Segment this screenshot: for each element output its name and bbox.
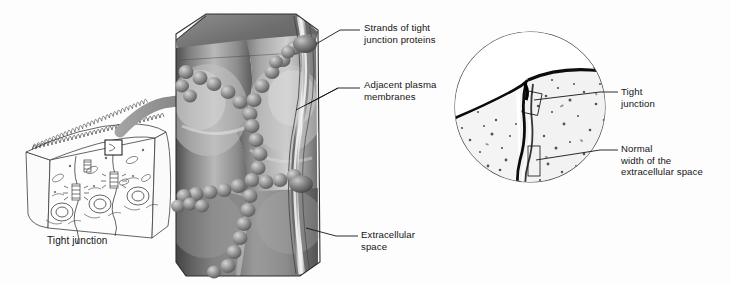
label-tight-junction-left: Tight junction xyxy=(47,235,108,247)
label-normal-width-extracellular-space: Normal width of the extracellular space xyxy=(621,143,703,178)
label-adjacent-plasma-membranes: Adjacent plasma membranes xyxy=(364,79,436,102)
tight-junction-figure: Tight junction Strands of tight junction… xyxy=(0,0,731,284)
tight-junction-seal-point xyxy=(293,35,317,53)
label-extracellular-space: Extracellular space xyxy=(361,229,415,252)
label-tight-junction-micrograph: Tight junction xyxy=(621,86,655,109)
tight-junction-3d-illustration xyxy=(168,14,324,279)
leader-strands xyxy=(316,30,360,44)
electron-micrograph xyxy=(455,32,618,197)
epithelial-tissue-drawing xyxy=(26,99,171,244)
tight-junction-seal-point xyxy=(289,175,313,193)
junction-symbol xyxy=(84,160,91,172)
inset-highlight-box xyxy=(105,140,122,155)
label-strands-of-tight-junction-proteins: Strands of tight junction proteins xyxy=(364,22,436,45)
